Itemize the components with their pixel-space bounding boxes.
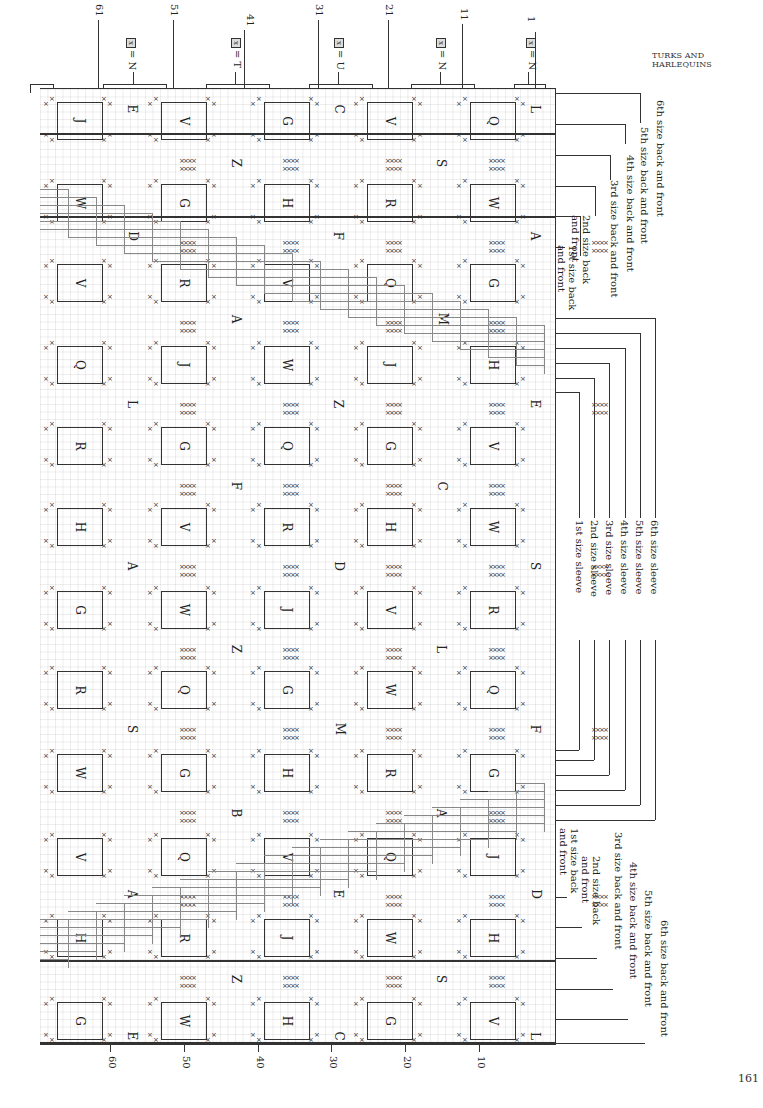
cross-stitch-icon: ×: [411, 421, 417, 428]
motif-letter: G: [486, 278, 500, 288]
cross-stitch-icon: ×: [397, 248, 403, 255]
cross-stitch-icon: ×: [250, 294, 256, 301]
cross-stitch-icon: ×: [211, 507, 217, 514]
cross-stitch-icon: ×: [308, 706, 314, 713]
cross-stitch-icon: ×: [294, 818, 300, 825]
motif-box: W: [470, 508, 516, 546]
cross-stitch-icon: ×: [397, 564, 403, 571]
size-outline: [488, 831, 517, 840]
cross-stitch-icon: ×: [211, 538, 217, 545]
cross-stitch-icon: ×: [514, 996, 520, 1003]
cross-stitch-icon: ×: [359, 585, 365, 592]
cross-stitch-icon: ×: [520, 753, 526, 760]
section-line: [40, 1042, 555, 1044]
cross-stitch-icon: ×: [205, 421, 211, 428]
cross-stitch-icon: ×: [107, 590, 113, 597]
cross-stitch-icon: ×: [211, 949, 217, 956]
cross-stitch-icon: ×: [520, 376, 526, 383]
motif-box: G: [57, 591, 103, 629]
cross-stitch-icon: ×: [153, 462, 159, 469]
cross-stitch-icon: ×: [211, 621, 217, 628]
cross-stitch-icon: ×: [107, 345, 113, 352]
cross-stitch-icon: ×: [49, 706, 55, 713]
motif-box: Q: [57, 346, 103, 384]
motif-letter: R: [177, 278, 191, 287]
cross-stitch-icon: ×: [353, 101, 359, 108]
motif-letter: Q: [486, 116, 500, 126]
cross-stitch-icon: ×: [205, 706, 211, 713]
cross-stitch-icon: ×: [153, 873, 159, 880]
cross-stitch-icon: ×: [43, 294, 49, 301]
cross-stitch-icon: ×: [191, 818, 197, 825]
cross-stitch-icon: ×: [308, 137, 314, 144]
cross-stitch-icon: ×: [462, 913, 468, 920]
cross-stitch-icon: ×: [314, 784, 320, 791]
cross-stitch-icon: ×: [500, 410, 506, 417]
cross-stitch-icon: ×: [520, 670, 526, 677]
motif-box: Q: [264, 427, 310, 465]
cross-stitch-icon: ×: [49, 96, 55, 103]
size-outline: [124, 253, 153, 262]
cross-stitch-icon: ×: [147, 507, 153, 514]
cross-stitch-icon: ×: [101, 421, 107, 428]
cross-stitch-icon: ×: [294, 572, 300, 579]
motif-box: Q: [161, 838, 207, 876]
cross-stitch-icon: ×: [353, 426, 359, 433]
cross-stitch-icon: ×: [191, 402, 197, 409]
cross-stitch-icon: ×: [49, 258, 55, 265]
cross-stitch-icon: ×: [107, 538, 113, 545]
size-outline: [96, 245, 125, 254]
cross-stitch-icon: ×: [411, 543, 417, 550]
motif-box: G: [57, 1002, 103, 1040]
cross-stitch-icon: ×: [191, 320, 197, 327]
centre-letter: E: [331, 890, 345, 899]
cross-stitch-icon: ×: [250, 753, 256, 760]
cross-stitch-icon: ×: [107, 701, 113, 708]
cross-stitch-icon: ×: [191, 983, 197, 990]
cross-stitch-icon: ×: [397, 647, 403, 654]
size-outline: [460, 349, 489, 358]
motif-box: Q: [470, 671, 516, 709]
cross-stitch-icon: ×: [314, 214, 320, 221]
cross-stitch-icon: ×: [294, 328, 300, 335]
motif-box: R: [367, 184, 413, 222]
cross-stitch-icon: ×: [49, 585, 55, 592]
centre-letter: C: [332, 104, 346, 113]
cross-stitch-icon: ×: [314, 101, 320, 108]
cross-stitch-icon: ×: [514, 258, 520, 265]
size-outline: [320, 879, 349, 888]
cross-stitch-icon: ×: [359, 996, 365, 1003]
size-outline: [404, 333, 433, 342]
tick: [528, 72, 529, 84]
cross-stitch-icon: ×: [294, 483, 300, 490]
cross-stitch-icon: ×: [256, 665, 262, 672]
cross-stitch-icon: ×: [211, 1001, 217, 1008]
cross-stitch-icon: ×: [49, 462, 55, 469]
cross-stitch-icon: ×: [359, 665, 365, 672]
cross-stitch-icon: ×: [294, 158, 300, 165]
cross-stitch-icon: ×: [308, 665, 314, 672]
size-outline: [152, 927, 181, 936]
cross-stitch-icon: ×: [101, 665, 107, 672]
cross-stitch-icon: ×: [107, 132, 113, 139]
cross-stitch-icon: ×: [514, 137, 520, 144]
cross-stitch-icon: ×: [147, 294, 153, 301]
cross-stitch-icon: ×: [43, 376, 49, 383]
cross-stitch-icon: ×: [153, 137, 159, 144]
page-number: 161: [738, 1072, 759, 1085]
cross-stitch-icon: ×: [500, 655, 506, 662]
cross-stitch-icon: ×: [462, 178, 468, 185]
cross-stitch-icon: ×: [43, 701, 49, 708]
cross-stitch-icon: ×: [294, 727, 300, 734]
cross-stitch-icon: ×: [205, 381, 211, 388]
cross-stitch-icon: ×: [205, 748, 211, 755]
cross-stitch-icon: ×: [353, 753, 359, 760]
stitch-number: 41: [245, 14, 256, 27]
cross-stitch-icon: ×: [456, 621, 462, 628]
cross-stitch-icon: ×: [353, 345, 359, 352]
cross-stitch-icon: ×: [250, 949, 256, 956]
cross-stitch-icon: ×: [456, 868, 462, 875]
motif-letter: G: [280, 685, 294, 695]
motif-letter: R: [73, 441, 87, 450]
size-outline: [264, 895, 293, 904]
